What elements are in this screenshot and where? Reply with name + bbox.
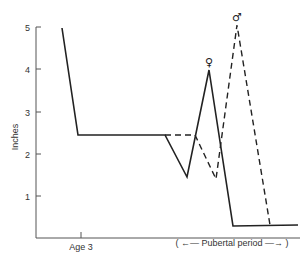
y-tick-label: 2	[25, 150, 30, 160]
y-tick-label: 5	[25, 23, 30, 33]
pubertal-period-label: ( ←— Pubertal period —→ )	[175, 238, 288, 248]
y-ticks	[36, 27, 41, 196]
female-series-line	[62, 28, 298, 226]
y-tick-label: 4	[25, 65, 30, 75]
y-axis-title: Inches	[10, 123, 20, 150]
male-symbol-icon: ♂	[232, 11, 242, 24]
female-symbol-icon: ♀	[205, 56, 213, 69]
growth-velocity-chart: 5 4 3 2 1 Inches Age 3 ( ←— Pubertal per…	[0, 0, 308, 261]
y-tick-label: 1	[25, 192, 30, 202]
age-3-label: Age 3	[69, 242, 93, 252]
y-tick-label: 3	[25, 108, 30, 118]
